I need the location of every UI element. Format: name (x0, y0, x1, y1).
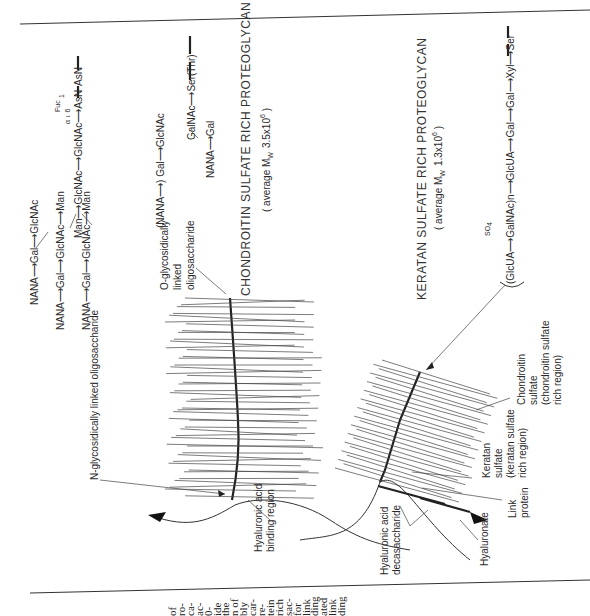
svg-text:Fuc: Fuc (54, 100, 61, 112)
linkage-region: (GlcUA⟶GalNAc)n⟶GlcUA⟶Gal⟶Gal⟶Xyl⟶Ser SO… (484, 26, 524, 287)
o-glyco-label-3: oligosaccharide (185, 220, 196, 290)
svg-text:( average MW3.5x106 ): ( average MW3.5x106 ) (259, 108, 274, 212)
ha-deca-label-2: decasaccharide (391, 505, 402, 575)
linkage-chain: (GlcUA⟶GalNAc)n⟶GlcUA⟶Gal⟶Gal⟶Xyl⟶Ser (505, 34, 516, 284)
o-glyco-label-2: linked (172, 264, 183, 290)
hyaluronate-strand-1 (150, 500, 410, 550)
svg-text:( average MW1.3x106 ): ( average MW1.3x106 ) (431, 126, 446, 230)
svg-text:SO4: SO4 (484, 222, 493, 236)
ha-deca-label-1: Hyaluronic acid (379, 507, 390, 575)
keratan-label-3: (keratan sulfate (505, 409, 516, 478)
o-top: (NANA⟶) Gal⟶GlcNAc (155, 113, 166, 228)
chondroitin-label-4: rich region) (552, 355, 563, 405)
svg-text:CHONDROITIN SULFATE RICH PR: CHONDROITIN SULFATE RICH PROTEOGLYCAN (239, 2, 253, 296)
link-protein-label-1: Link (507, 499, 518, 518)
svg-text:α ↓ 6: α ↓ 6 (64, 109, 71, 124)
ha-binding-label-1: Hyaluronic acid (253, 484, 264, 552)
o-linked-oligosaccharide: GalNAc⟶Ser(Thr) (NANA⟶) Gal⟶GlcNAc NANA⟶… (155, 36, 216, 228)
ha-binding-label-2: binding region (265, 489, 276, 552)
svg-text:KERATAN SULFATE RICH PROTEO: KERATAN SULFATE RICH PROTEOGLYCAN (415, 38, 429, 300)
bottom-rule (30, 580, 590, 593)
o-bottom: NANA⟶Gal (205, 121, 216, 178)
keratan-pointer (426, 285, 505, 370)
svg-text:ding: ding (335, 596, 347, 616)
chondroitin-label-3: (chondroitin sulfate (540, 320, 551, 405)
keratan-label-4: rich region) (517, 428, 528, 478)
chondroitin-mw: ( average MW3.5x106 ) (259, 108, 274, 212)
n-branch-3: NANA⟶Gal⟶GlcNAc⟶Man (81, 191, 92, 330)
asn-label: AsN (73, 67, 84, 86)
proteoglycan-diagram: AsN Man⟶GlcNAc⟶GlcNAc⟶AsN Fuc1 α ↓ 6 NAN… (0, 0, 590, 616)
n-branch-1: NANA⟶Gal⟶GlcNAc (29, 200, 40, 305)
keratan-title: KERATAN SULFATE RICH PROTEOGLYCAN (415, 38, 429, 300)
hyaluronate-label: Hyaluronate (479, 512, 490, 566)
chondroitin-label-1: Chondroitin (516, 354, 527, 405)
link-protein-label-2: protein (519, 487, 530, 518)
chondroitin-proteoglycan-core (230, 298, 239, 500)
chondroitin-title: CHONDROITIN SULFATE RICH PROTEOGLYCAN (239, 2, 253, 296)
o-core: GalNAc⟶Ser(Thr) (186, 54, 197, 140)
chondroitin-label-2: sulfate (528, 375, 539, 405)
o-glyco-label-1: O-glycosidically (159, 221, 170, 290)
keratan-proteoglycan-core (380, 372, 420, 482)
n-linked-oligosaccharide: AsN Man⟶GlcNAc⟶GlcNAc⟶AsN Fuc1 α ↓ 6 NAN… (29, 56, 92, 330)
chondroitin-bristles (165, 298, 323, 498)
n-glyco-label: N-glycosidically linked oligosaccharide (89, 309, 100, 480)
keratan-label-2: sulfate (493, 448, 504, 478)
keratan-mw: ( average MW1.3x106 ) (431, 126, 446, 230)
keratan-label-1: Keratan (481, 443, 492, 478)
top-rule (20, 10, 590, 24)
svg-text:1: 1 (58, 94, 65, 98)
n-branch-2: NANA⟶Gal⟶GlcNAc⟶Man (55, 191, 66, 330)
page-text-fragments: ofro-ca-ac-0-idethen ofblycar-re-teinric… (166, 596, 347, 616)
